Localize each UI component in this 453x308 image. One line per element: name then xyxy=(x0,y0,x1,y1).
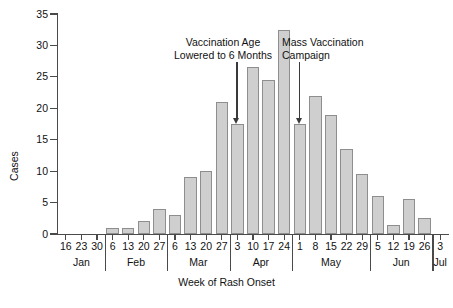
month-separator xyxy=(292,234,293,271)
month-label-apr: Apr xyxy=(236,257,286,268)
month-label-jan: Jan xyxy=(56,257,106,268)
bar xyxy=(247,67,259,234)
arrow-head-down-icon xyxy=(296,118,302,124)
bar xyxy=(418,218,430,234)
month-label-jul: Jul xyxy=(415,257,453,268)
y-tick-label-20: 20 xyxy=(22,103,48,113)
bar xyxy=(216,102,228,234)
y-axis-title: Cases xyxy=(8,136,20,196)
month-label-may: May xyxy=(306,257,356,268)
bar xyxy=(403,199,415,234)
chart-container: Cases 05101520253035 1623306132027613202… xyxy=(0,0,453,308)
arrow-shaft xyxy=(236,62,237,118)
annotation-mass-campaign: Mass Vaccination Campaign xyxy=(282,36,392,61)
arrow-shaft xyxy=(299,62,300,118)
y-tick-20 xyxy=(50,108,57,109)
bar xyxy=(340,149,352,234)
y-tick-5 xyxy=(50,202,57,203)
month-label-mar: Mar xyxy=(173,257,223,268)
month-separator xyxy=(105,234,106,271)
bar xyxy=(184,177,196,234)
y-tick-label-0: 0 xyxy=(22,229,48,239)
y-tick-0 xyxy=(50,233,57,234)
y-tick-15 xyxy=(50,139,57,140)
y-tick-label-25: 25 xyxy=(22,71,48,81)
bar xyxy=(200,171,212,234)
bar xyxy=(294,124,306,234)
month-separator xyxy=(370,234,371,271)
y-tick-30 xyxy=(50,45,57,46)
bar xyxy=(231,124,243,234)
bar xyxy=(262,80,274,234)
bar xyxy=(122,228,134,234)
y-tick-label-35: 35 xyxy=(22,9,48,19)
x-axis-title: Week of Rash Onset xyxy=(0,276,453,288)
bar xyxy=(372,196,384,234)
bar xyxy=(138,221,150,234)
month-separator xyxy=(167,234,168,271)
y-tick-label-5: 5 xyxy=(22,197,48,207)
bar xyxy=(106,228,118,234)
arrow-head-down-icon xyxy=(233,118,239,124)
y-tick-35 xyxy=(50,13,57,14)
y-tick-10 xyxy=(50,171,57,172)
bar xyxy=(325,115,337,234)
y-tick-label-10: 10 xyxy=(22,166,48,176)
bar xyxy=(309,96,321,234)
bar xyxy=(153,209,165,234)
y-tick-label-30: 30 xyxy=(22,40,48,50)
y-tick-label-15: 15 xyxy=(22,134,48,144)
annotation-vaccination-age: Vaccination Age Lowered to 6 Months xyxy=(148,36,298,61)
bar xyxy=(169,215,181,234)
month-label-feb: Feb xyxy=(111,257,161,268)
bar xyxy=(356,174,368,234)
y-tick-25 xyxy=(50,76,57,77)
month-separator xyxy=(230,234,231,271)
bar xyxy=(387,225,399,234)
